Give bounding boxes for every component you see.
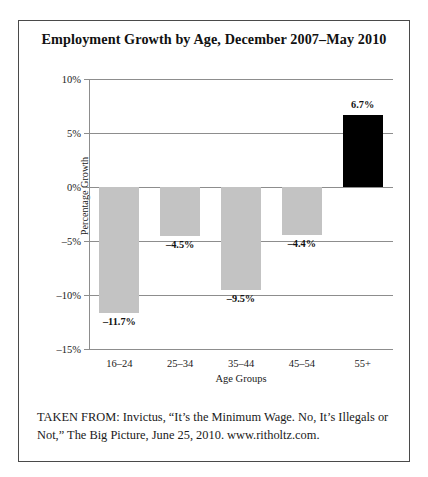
bar-16-24: [99, 187, 139, 313]
source-caption: TAKEN FROM: Invictus, “It’s the Minimum …: [37, 409, 393, 445]
x-axis-tick-label: 25–34: [167, 358, 193, 369]
x-axis-tick-label: 45–54: [289, 358, 315, 369]
y-tick-mark: [84, 133, 89, 134]
figure-container: Employment Growth by Age, December 2007–…: [18, 20, 410, 462]
y-tick-mark: [84, 349, 89, 350]
x-axis-tick-label: 16–24: [106, 358, 132, 369]
y-axis-tick-label: 5%: [67, 128, 81, 139]
gridline-neg15: [89, 349, 393, 350]
plot-frame: 10%5%0%–5%–10%–15%–11.7%16–24–4.5%25–34–…: [89, 79, 393, 349]
bar-value-label: –4.5%: [166, 239, 194, 250]
bar-value-label: 6.7%: [351, 99, 374, 110]
y-axis-spine: [89, 79, 90, 349]
y-axis-tick-label: –5%: [62, 236, 81, 247]
y-tick-mark: [84, 241, 89, 242]
y-tick-mark: [84, 187, 89, 188]
bar-value-label: –4.4%: [288, 238, 316, 249]
bar-value-label: –9.5%: [227, 293, 255, 304]
y-tick-mark: [84, 79, 89, 80]
bar-35-44: [221, 187, 261, 290]
bar-value-label: –11.7%: [103, 316, 136, 327]
y-tick-mark: [84, 295, 89, 296]
gridline-10: [89, 79, 393, 80]
y-axis-tick-label: 0%: [67, 182, 81, 193]
bar-25-34: [160, 187, 200, 236]
bar-55-: [343, 115, 383, 187]
x-axis-title: Age Groups: [89, 373, 393, 384]
bar-45-54: [282, 187, 322, 235]
y-axis-tick-label: 10%: [62, 74, 81, 85]
y-axis-tick-label: –10%: [57, 290, 82, 301]
chart-plot-region: Percentage Growth 10%5%0%–5%–10%–15%–11.…: [19, 21, 411, 393]
y-axis-tick-label: –15%: [57, 344, 82, 355]
x-axis-tick-label: 55+: [354, 358, 370, 369]
x-axis-tick-label: 35–44: [228, 358, 254, 369]
